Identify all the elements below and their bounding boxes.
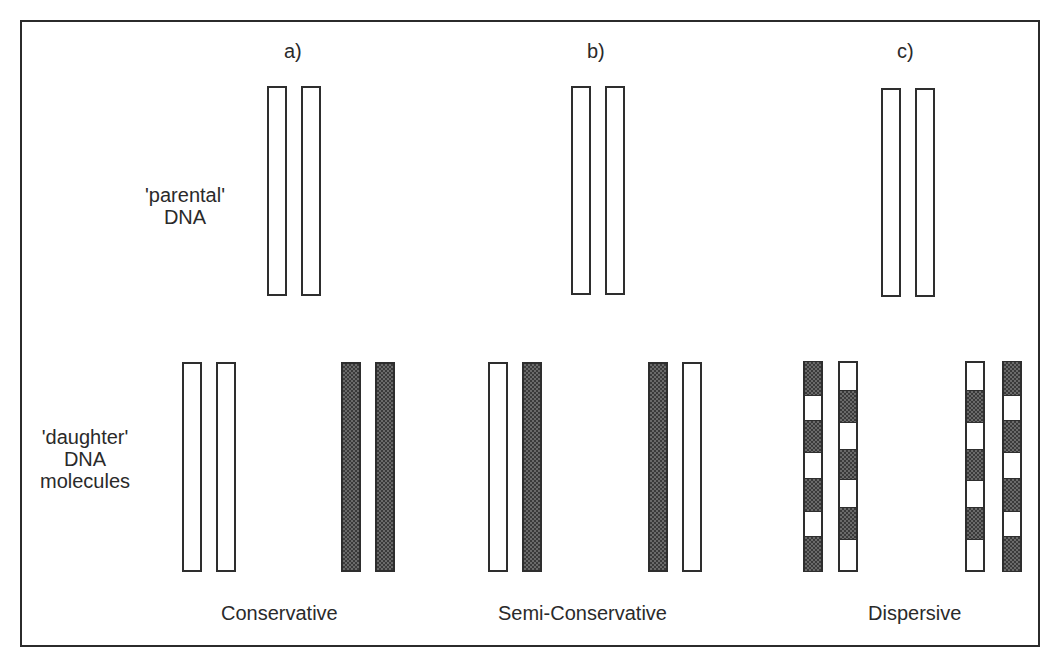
new-dna-segment (805, 361, 821, 396)
row-label-daughter-line2: DNA (30, 448, 140, 470)
dispersive-daughter1-strand1 (803, 361, 823, 572)
conservative-daughter1-old-strand-2 (216, 362, 236, 572)
dispersive-daughter2-strand1 (965, 361, 985, 572)
semiconservative-daughter1-old-strand (488, 362, 508, 572)
parental-strand-b2 (605, 86, 625, 295)
conservative-daughter2-new-strand-2 (375, 362, 395, 572)
new-dna-segment (1004, 420, 1020, 453)
parental-strand-c1 (881, 88, 901, 297)
panel-label-c: c) (897, 40, 914, 62)
row-label-daughter: 'daughter' DNA molecules (30, 426, 140, 492)
new-dna-segment (967, 449, 983, 481)
new-dna-segment (805, 478, 821, 512)
parental-strand-c2 (915, 88, 935, 297)
model-label-conservative: Conservative (221, 602, 338, 624)
semiconservative-daughter2-new-strand (648, 362, 668, 572)
parental-strand-a1 (267, 86, 287, 296)
semiconservative-daughter1-new-strand (522, 362, 542, 572)
row-label-daughter-line1: 'daughter' (30, 426, 140, 448)
parental-strand-b1 (571, 86, 591, 295)
new-dna-segment (967, 390, 983, 423)
new-dna-segment (805, 536, 821, 572)
new-dna-segment (1004, 536, 1020, 572)
row-label-parental: 'parental' DNA (130, 184, 240, 228)
semiconservative-daughter2-old-strand (682, 362, 702, 572)
panel-label-b: b) (587, 40, 605, 62)
new-dna-segment (1004, 478, 1020, 512)
dispersive-daughter2-strand2 (1002, 361, 1022, 572)
dispersive-daughter1-strand2 (838, 361, 858, 572)
new-dna-segment (1004, 361, 1020, 396)
new-dna-segment (967, 507, 983, 540)
row-label-parental-line2: DNA (130, 206, 240, 228)
row-label-daughter-line3: molecules (30, 470, 140, 492)
parental-strand-a2 (301, 86, 321, 296)
model-label-semi-conservative: Semi-Conservative (498, 602, 667, 624)
new-dna-segment (840, 449, 856, 480)
conservative-daughter1-old-strand (182, 362, 202, 572)
panel-label-a: a) (284, 40, 302, 62)
new-dna-segment (840, 390, 856, 423)
row-label-parental-line1: 'parental' (130, 184, 240, 206)
conservative-daughter2-new-strand (341, 362, 361, 572)
new-dna-segment (840, 507, 856, 540)
model-label-dispersive: Dispersive (868, 602, 961, 624)
new-dna-segment (805, 420, 821, 453)
